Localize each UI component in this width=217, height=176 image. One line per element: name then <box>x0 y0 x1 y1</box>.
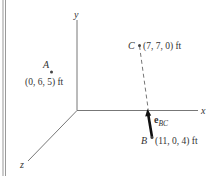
x-axis-label: x <box>200 105 206 116</box>
point-a-label: A <box>42 59 50 70</box>
point-c-marker <box>138 44 141 47</box>
point-c-coords: (7, 7, 0) ft <box>143 41 182 52</box>
point-b-marker <box>151 136 154 139</box>
point-b-coords: (11, 0, 4) ft <box>155 136 198 147</box>
y-axis-label: y <box>73 9 79 20</box>
unit-vector-label: eBC <box>154 114 169 128</box>
diagram-canvas: y x z A (0, 6, 5) ft C (7, 7, 0) ft eBC … <box>0 0 217 176</box>
vector-diagram: y x z A (0, 6, 5) ft C (7, 7, 0) ft eBC … <box>0 0 217 176</box>
unit-vector-shaft <box>148 115 152 137</box>
point-a-marker <box>50 71 53 74</box>
z-axis-label: z <box>19 159 24 170</box>
point-a-coords: (0, 6, 5) ft <box>25 77 64 88</box>
point-b-label: B <box>141 135 147 146</box>
z-axis-line <box>28 111 77 162</box>
point-c-label: C <box>128 40 135 51</box>
unit-vector-label-sub: BC <box>158 119 169 128</box>
